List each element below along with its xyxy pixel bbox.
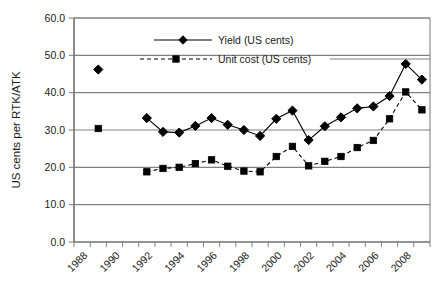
chart-container: 0.010.020.030.040.050.060.0 198819901992…: [0, 0, 444, 300]
data-point-marker-square: [160, 165, 166, 171]
line-chart: 0.010.020.030.040.050.060.0 198819901992…: [0, 0, 444, 300]
data-point-marker-square: [354, 144, 360, 150]
data-point-marker-square: [289, 143, 295, 149]
data-point-marker-square: [338, 153, 344, 159]
data-point-marker-square: [95, 125, 101, 131]
data-point-marker-square: [386, 116, 392, 122]
y-axis-tick-label: 0.0: [50, 236, 65, 248]
y-axis-tick-label: 40.0: [45, 86, 66, 98]
data-point-marker-square: [241, 168, 247, 174]
y-axis-tick-label: 30.0: [45, 124, 66, 136]
data-point-marker-square: [144, 169, 150, 175]
y-axis-tick-label: 10.0: [45, 198, 66, 210]
y-axis-tick-label: 50.0: [45, 49, 66, 61]
data-point-marker-square: [173, 56, 179, 62]
data-point-marker-square: [225, 163, 231, 169]
y-axis-title: US cents per RTK/ATK: [10, 71, 22, 188]
y-axis-tick-label: 60.0: [45, 12, 66, 24]
data-point-marker-square: [273, 153, 279, 159]
data-point-marker-square: [176, 164, 182, 170]
y-axis-tick-label: 20.0: [45, 161, 66, 173]
data-point-marker-square: [322, 158, 328, 164]
legend-label: Yield (US cents): [218, 34, 293, 46]
data-point-marker-square: [208, 157, 214, 163]
data-point-marker-square: [305, 163, 311, 169]
data-point-marker-square: [419, 107, 425, 113]
legend-label: Unit cost (US cents): [218, 53, 311, 65]
data-point-marker-square: [370, 137, 376, 143]
data-point-marker-square: [257, 169, 263, 175]
data-point-marker-square: [403, 89, 409, 95]
data-point-marker-square: [192, 160, 198, 166]
